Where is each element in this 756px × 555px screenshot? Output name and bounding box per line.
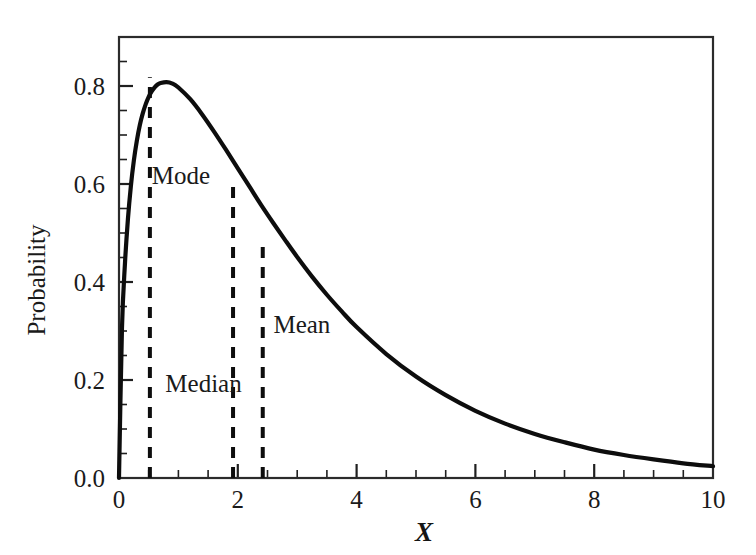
- x-tick-label: 4: [350, 486, 363, 513]
- x-axis-title: X: [414, 517, 434, 547]
- y-tick-label: 0.4: [74, 269, 106, 296]
- y-tick-label: 0.2: [74, 367, 105, 394]
- figure-background: [0, 0, 756, 555]
- x-tick-label: 0: [113, 486, 126, 513]
- annotation-label-mode: Mode: [152, 162, 210, 189]
- x-tick-label: 10: [701, 486, 726, 513]
- x-tick-label: 6: [469, 486, 482, 513]
- annotation-label-mean: Mean: [273, 311, 330, 338]
- x-tick-label: 8: [588, 486, 601, 513]
- probability-distribution-figure: 0246810 0.00.20.40.60.8 ModeMedianMean P…: [0, 0, 756, 555]
- y-tick-label: 0.0: [74, 465, 105, 492]
- y-tick-label: 0.8: [74, 73, 105, 100]
- y-axis-title: Probability: [23, 224, 50, 336]
- chart-canvas: 0246810 0.00.20.40.60.8 ModeMedianMean P…: [0, 0, 756, 555]
- x-tick-label: 2: [232, 486, 245, 513]
- annotation-label-median: Median: [165, 370, 242, 397]
- y-tick-label: 0.6: [74, 171, 105, 198]
